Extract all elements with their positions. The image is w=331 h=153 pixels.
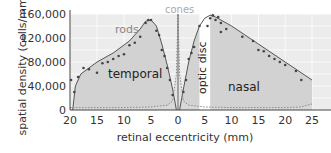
rods-label: rods xyxy=(115,23,139,36)
x-axis-label: retinal eccentricity (mm) xyxy=(117,131,254,144)
density-chart: 20151050510152025040,00080,000120,000160… xyxy=(0,0,331,153)
svg-text:15: 15 xyxy=(251,114,265,127)
nasal-label: nasal xyxy=(228,80,260,94)
svg-text:20: 20 xyxy=(278,114,292,127)
cones-label: cones xyxy=(165,4,194,15)
svg-text:10: 10 xyxy=(117,114,131,127)
svg-text:10: 10 xyxy=(225,114,239,127)
optic-disc-label: optic disc xyxy=(196,42,209,94)
svg-text:0: 0 xyxy=(59,104,66,117)
svg-text:5: 5 xyxy=(201,114,208,127)
svg-text:25: 25 xyxy=(305,114,319,127)
svg-text:80,000: 80,000 xyxy=(28,56,67,69)
svg-text:5: 5 xyxy=(148,114,155,127)
svg-text:40,000: 40,000 xyxy=(28,80,67,93)
y-axis-label: spatial density (cells/mm2) xyxy=(16,0,29,135)
svg-text:15: 15 xyxy=(90,114,104,127)
svg-text:0: 0 xyxy=(175,114,182,127)
temporal-label: temporal xyxy=(108,67,162,81)
